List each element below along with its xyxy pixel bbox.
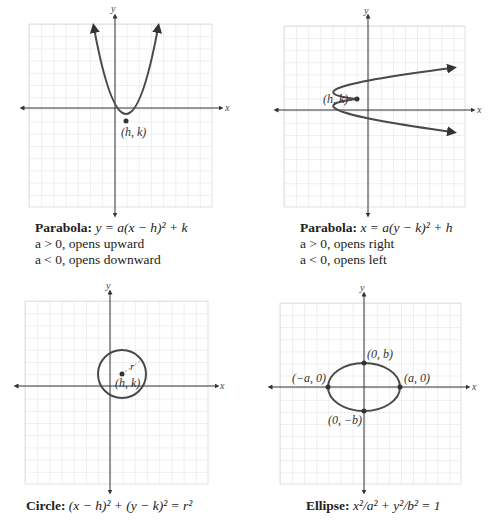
equation: x²/a² + y²/b² = 1 [353,498,441,513]
point-a-0 [398,385,403,390]
point-neg-a-0 [326,385,331,390]
label-0-b: (0, b) [367,347,393,362]
label-0-neg-b: (0, −b) [328,413,362,428]
y-axis-label: y [360,282,364,293]
point-0-b [362,361,367,366]
x-axis-label: x [472,381,476,392]
caption-ellipse: Ellipse: x²/a² + y²/b² = 1 [306,498,441,514]
label-a-0: (a, 0) [404,371,430,386]
panel-ellipse: y x (0, b) (−a, 0) (a, 0) (0, −b) Ellips… [0,0,493,531]
graph-ellipse [0,0,493,531]
grid [280,303,461,484]
caption-title: Ellipse: [306,498,350,513]
label-neg-a-0: (−a, 0) [292,371,326,386]
point-0-neg-b [362,409,367,414]
